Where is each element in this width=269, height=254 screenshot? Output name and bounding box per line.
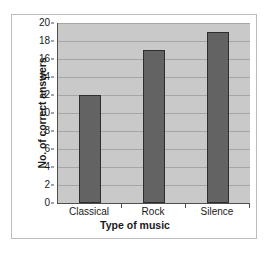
y-axis-tick-label: 12 — [39, 90, 50, 100]
y-axis-tick-label: 6 — [44, 144, 50, 154]
y-axis-tick-label: 20 — [39, 18, 50, 28]
y-axis-tick-mark — [51, 203, 54, 204]
y-axis-tick-label: 8 — [44, 126, 50, 136]
y-axis-tick-mark — [51, 77, 54, 78]
y-axis-tick-mark — [51, 113, 54, 114]
y-axis-tick-mark — [51, 167, 54, 168]
y-axis-tick-label: 0 — [44, 198, 50, 208]
y-axis-tick-mark — [51, 59, 54, 60]
chart-frame: No. of correct answers 02468101214161820… — [11, 14, 257, 239]
bar-silence — [207, 32, 229, 203]
y-axis-tick-mark — [51, 41, 54, 42]
y-axis-tick-mark — [51, 149, 54, 150]
y-axis-tick-mark — [51, 185, 54, 186]
y-axis-tick-label: 16 — [39, 54, 50, 64]
x-axis-tick-mark — [249, 204, 250, 208]
gridline — [58, 23, 250, 24]
bar-rock — [143, 50, 165, 203]
x-axis-title: Type of music — [12, 219, 258, 231]
y-axis-tick-label: 10 — [39, 108, 50, 118]
y-axis-tick-labels: 02468101214161820 — [30, 17, 54, 205]
y-axis-tick-label: 4 — [44, 162, 50, 172]
plot-area — [57, 23, 250, 204]
bar-chart-figure: No. of correct answers 02468101214161820… — [0, 0, 269, 254]
x-axis-tick-label: Classical — [57, 206, 121, 217]
x-axis-tick-labels: ClassicalRockSilence — [57, 206, 250, 220]
y-axis-tick-label: 2 — [44, 180, 50, 190]
x-axis-tick-label: Silence — [185, 206, 249, 217]
y-axis-tick-mark — [51, 23, 54, 24]
y-axis-tick-label: 18 — [39, 36, 50, 46]
x-axis-tick-mark — [185, 204, 186, 208]
y-axis-tick-label: 14 — [39, 72, 50, 82]
bar-classical — [79, 95, 101, 203]
y-axis-tick-mark — [51, 95, 54, 96]
x-axis-tick-mark — [121, 204, 122, 208]
x-axis-tick-label: Rock — [121, 206, 185, 217]
y-axis-tick-mark — [51, 131, 54, 132]
